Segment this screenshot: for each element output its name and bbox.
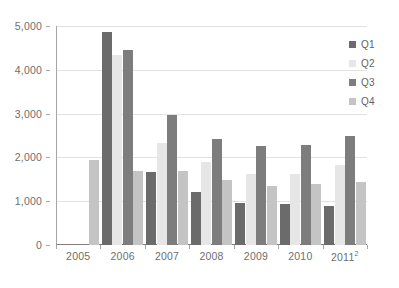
bar-q4-2006: [133, 171, 143, 245]
bar-q2-2007: [157, 143, 167, 245]
y-tick-label: 1,000: [15, 195, 42, 207]
bar-chart: 01,0002,0003,0004,0005,000 2005200620072…: [0, 0, 399, 288]
bar-q1-2009: [235, 203, 245, 245]
bar-q4-2005: [89, 160, 99, 245]
x-axis: 20052006200720082009201020112: [56, 250, 367, 272]
bar-q1-2010: [280, 204, 290, 245]
bar-q1-2007: [146, 172, 156, 245]
bar-q2-2011: [335, 165, 345, 245]
legend: Q1Q2Q3Q4: [349, 36, 395, 112]
x-tick-mark: [189, 245, 190, 249]
legend-swatch-icon: [349, 60, 356, 67]
y-tick-mark: [46, 157, 50, 158]
x-tick-mark: [367, 245, 368, 249]
x-tick-label: 2006: [111, 250, 135, 262]
bar-q3-2009: [256, 146, 266, 245]
x-tick-label: 2010: [288, 250, 312, 262]
bar-q3-2010: [301, 145, 311, 245]
x-tick-label: 2008: [199, 250, 223, 262]
bar-q4-2009: [267, 186, 277, 245]
bar-q3-2011: [345, 136, 355, 245]
x-tick-label: 2007: [155, 250, 179, 262]
x-tick-mark: [234, 245, 235, 249]
y-tick-mark: [46, 26, 50, 27]
bar-q1-2011: [324, 206, 334, 245]
bar-q2-2006: [112, 55, 122, 245]
bar-q3-2006: [123, 50, 133, 245]
bar-q4-2007: [178, 171, 188, 245]
legend-label: Q4: [361, 96, 375, 107]
legend-swatch-icon: [349, 98, 356, 105]
y-tick-label: 0: [36, 239, 42, 251]
legend-label: Q3: [361, 77, 375, 88]
bar-q4-2010: [311, 184, 321, 245]
legend-item-q2[interactable]: Q2: [349, 55, 395, 72]
legend-item-q1[interactable]: Q1: [349, 36, 395, 53]
legend-item-q3[interactable]: Q3: [349, 74, 395, 91]
y-axis: 01,0002,0003,0004,0005,000: [0, 26, 50, 245]
x-tick-label: 2005: [66, 250, 90, 262]
y-tick-mark: [46, 245, 50, 246]
bars-layer: [56, 26, 367, 245]
x-tick-mark: [56, 245, 57, 249]
bar-q1-2008: [191, 192, 201, 245]
y-tick-mark: [46, 201, 50, 202]
bar-q2-2010: [290, 174, 300, 245]
bar-q1-2006: [102, 32, 112, 245]
y-tick-label: 4,000: [15, 64, 42, 76]
legend-swatch-icon: [349, 41, 356, 48]
x-tick-label: 2009: [244, 250, 268, 262]
bar-q2-2009: [246, 174, 256, 245]
bar-q4-2008: [222, 180, 232, 245]
legend-label: Q1: [361, 39, 375, 50]
legend-item-q4[interactable]: Q4: [349, 93, 395, 110]
x-tick-mark: [278, 245, 279, 249]
legend-label: Q2: [361, 58, 375, 69]
x-tick-label: 20112: [331, 250, 358, 263]
bar-q3-2007: [167, 115, 177, 245]
bar-q4-2011: [356, 182, 366, 245]
bar-q2-2008: [201, 162, 211, 245]
x-tick-footnote: 2: [354, 250, 358, 257]
y-tick-mark: [46, 114, 50, 115]
y-tick-label: 3,000: [15, 108, 42, 120]
y-tick-label: 2,000: [15, 151, 42, 163]
y-tick-label: 5,000: [15, 20, 42, 32]
x-tick-mark: [145, 245, 146, 249]
bar-q3-2008: [212, 139, 222, 245]
x-tick-mark: [323, 245, 324, 249]
y-tick-mark: [46, 70, 50, 71]
legend-swatch-icon: [349, 79, 356, 86]
x-tick-mark: [100, 245, 101, 249]
